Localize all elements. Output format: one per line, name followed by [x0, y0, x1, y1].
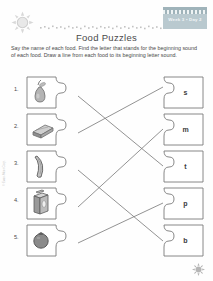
letter-label-s: s [160, 76, 204, 109]
letter-label-b: b [160, 224, 204, 257]
dotted-rule-decoration [40, 17, 168, 25]
item-number-2: 2. [14, 123, 19, 129]
food-piece-1[interactable] [26, 76, 70, 109]
side-credit-text: © Evan-Moor Corp. [2, 106, 6, 186]
letter-piece-b[interactable]: b [160, 224, 204, 257]
instructions-text: Say the name of each food. Find the lett… [11, 45, 201, 59]
item-number-3: 3. [14, 160, 19, 166]
food-piece-3[interactable] [26, 150, 70, 183]
item-number-4: 4. [14, 197, 19, 203]
letter-label-m: m [160, 113, 204, 146]
page-title: Food Puzzles [0, 32, 213, 43]
badge-teeth-decoration [163, 10, 207, 14]
letter-piece-m[interactable]: m [160, 113, 204, 146]
food-piece-2[interactable] [26, 113, 70, 146]
item-number-5: 5. [14, 234, 19, 240]
worksheet-page: Week 3 • Day 2 Food Puzzles Say the name… [0, 0, 213, 281]
food-piece-4[interactable] [26, 187, 70, 220]
starburst-icon [192, 262, 205, 275]
letter-label-t: t [160, 150, 204, 183]
week-day-badge: Week 3 • Day 2 [163, 7, 207, 29]
week-day-badge-label: Week 3 • Day 2 [168, 17, 202, 22]
letter-label-p: p [160, 187, 204, 220]
letter-piece-t[interactable]: t [160, 150, 204, 183]
letter-piece-p[interactable]: p [160, 187, 204, 220]
letter-piece-s[interactable]: s [160, 76, 204, 109]
food-piece-5[interactable] [26, 224, 70, 257]
sun-icon [11, 11, 34, 34]
item-number-1: 1. [14, 86, 19, 92]
